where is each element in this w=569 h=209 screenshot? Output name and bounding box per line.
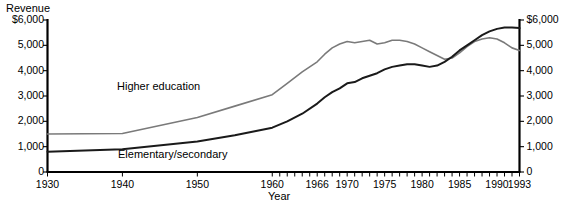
x-tick-label: 1993 — [500, 179, 540, 190]
series-label-elementary-secondary: Elementary/secondary — [118, 148, 227, 160]
revenue-line-chart: Revenue Year 01,0002,0003,0004,0005,000$… — [0, 0, 569, 209]
x-tick-label: 1970 — [327, 179, 367, 190]
y-tick-label-left: 3,000 — [0, 90, 44, 101]
y-tick-label-left: 5,000 — [0, 39, 44, 50]
y-tick-label-left: 0 — [0, 166, 44, 177]
x-tick-label: 1930 — [28, 179, 68, 190]
plot-area — [0, 0, 569, 209]
y-tick-label-right: 1,000 — [527, 141, 569, 152]
y-tick-label-right: 0 — [527, 166, 569, 177]
x-tick-label: 1980 — [402, 179, 442, 190]
x-tick-label: 1940 — [102, 179, 142, 190]
y-tick-label-left: $6,000 — [0, 14, 44, 25]
x-tick-label: 1985 — [440, 179, 480, 190]
y-tick-label-right: 2,000 — [527, 115, 569, 126]
y-tick-label-right: $6,000 — [527, 14, 569, 25]
y-tick-label-left: 2,000 — [0, 115, 44, 126]
y-tick-label-right: 3,000 — [527, 90, 569, 101]
y-tick-label-right: 4,000 — [527, 65, 569, 76]
series-label-higher-education: Higher education — [117, 80, 200, 92]
y-tick-label-right: 5,000 — [527, 39, 569, 50]
x-tick-label: 1960 — [252, 179, 292, 190]
y-tick-label-left: 4,000 — [0, 65, 44, 76]
y-tick-label-left: 1,000 — [0, 141, 44, 152]
x-tick-label: 1950 — [177, 179, 217, 190]
x-tick-label: 1975 — [365, 179, 405, 190]
